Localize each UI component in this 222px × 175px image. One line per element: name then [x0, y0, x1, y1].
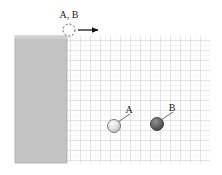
background-grid — [67, 36, 210, 163]
sphere-a — [108, 120, 121, 133]
support-block-highlight — [15, 36, 67, 39]
sphere-b — [151, 118, 164, 131]
support-block — [15, 36, 67, 163]
physics-diagram: A, B A B — [0, 0, 222, 175]
launch-point-label: A, B — [60, 9, 79, 20]
sphere-a-label: A — [125, 104, 133, 115]
sphere-b-label: B — [169, 102, 176, 113]
